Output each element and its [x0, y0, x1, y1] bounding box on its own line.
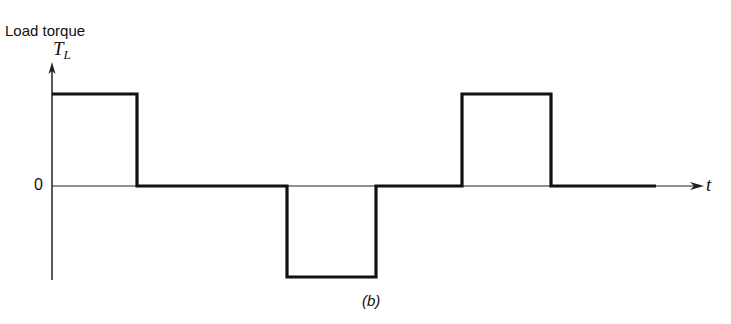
y-axis-symbol: TL [53, 38, 71, 63]
x-axis-symbol: t [706, 174, 711, 196]
torque-diagram: Load torque TL 0 t (b) [0, 0, 731, 324]
y-symbol-main: T [53, 38, 64, 59]
y-symbol-subscript: L [64, 47, 71, 62]
zero-tick-label: 0 [34, 176, 43, 194]
y-axis-title: Load torque [5, 22, 85, 39]
figure-caption: (b) [362, 292, 380, 309]
waveform-plot [0, 0, 731, 324]
